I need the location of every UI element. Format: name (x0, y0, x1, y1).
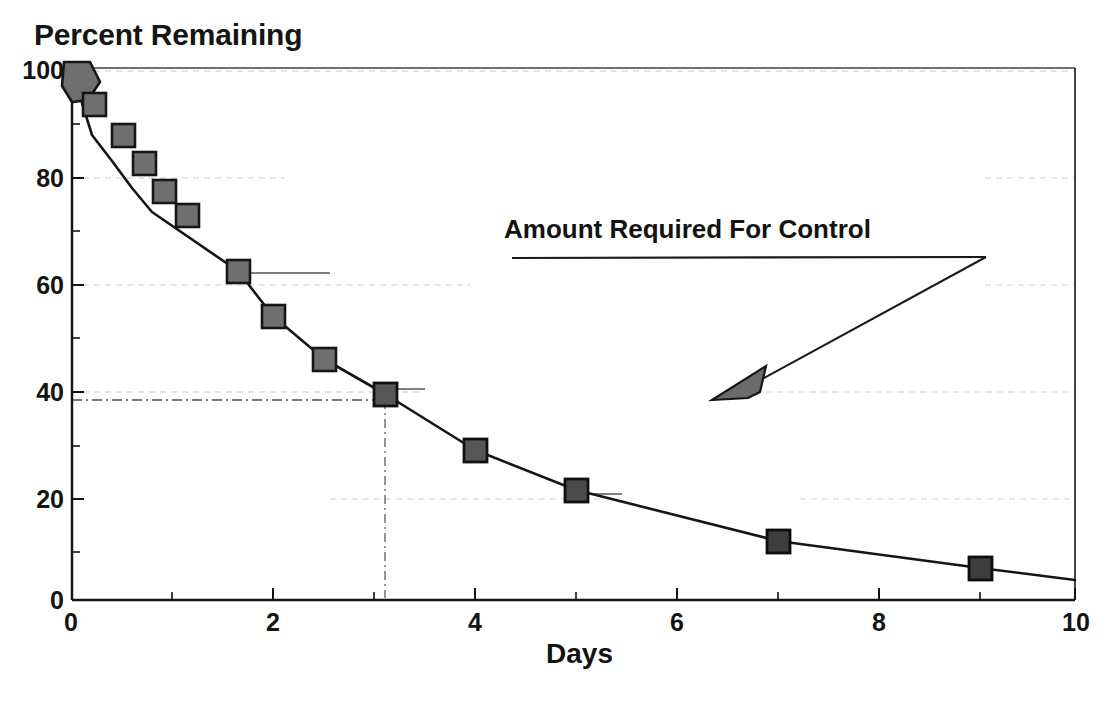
decay-curve (72, 71, 1075, 580)
data-marker-12 (767, 530, 790, 553)
data-marker-10 (464, 439, 487, 462)
annotation-callout (512, 257, 986, 400)
chart-canvas: Percent Remaining 100 80 60 40 20 0 0 2 … (0, 0, 1115, 714)
data-marker-2 (112, 124, 135, 147)
data-marker-13 (969, 557, 992, 580)
annotation-arrow-icon (712, 366, 766, 400)
plot-area (0, 0, 1115, 714)
data-marker-7 (262, 305, 285, 328)
annotation-underline (512, 257, 986, 258)
data-marker-8 (313, 348, 336, 371)
x-axis-ticks (72, 588, 1075, 600)
data-marker-3 (133, 152, 156, 175)
data-markers (62, 62, 992, 580)
data-marker-11 (565, 479, 588, 502)
marker-whiskers (238, 273, 622, 494)
data-marker-6 (227, 260, 250, 283)
annotation-leader-line (742, 257, 986, 390)
data-marker-5 (176, 204, 199, 227)
data-marker-1 (83, 93, 106, 116)
axis-frame (72, 68, 1075, 600)
data-marker-9 (374, 383, 397, 406)
gridlines (72, 71, 1075, 499)
data-marker-4 (153, 180, 176, 203)
y-axis-ticks (72, 71, 84, 600)
